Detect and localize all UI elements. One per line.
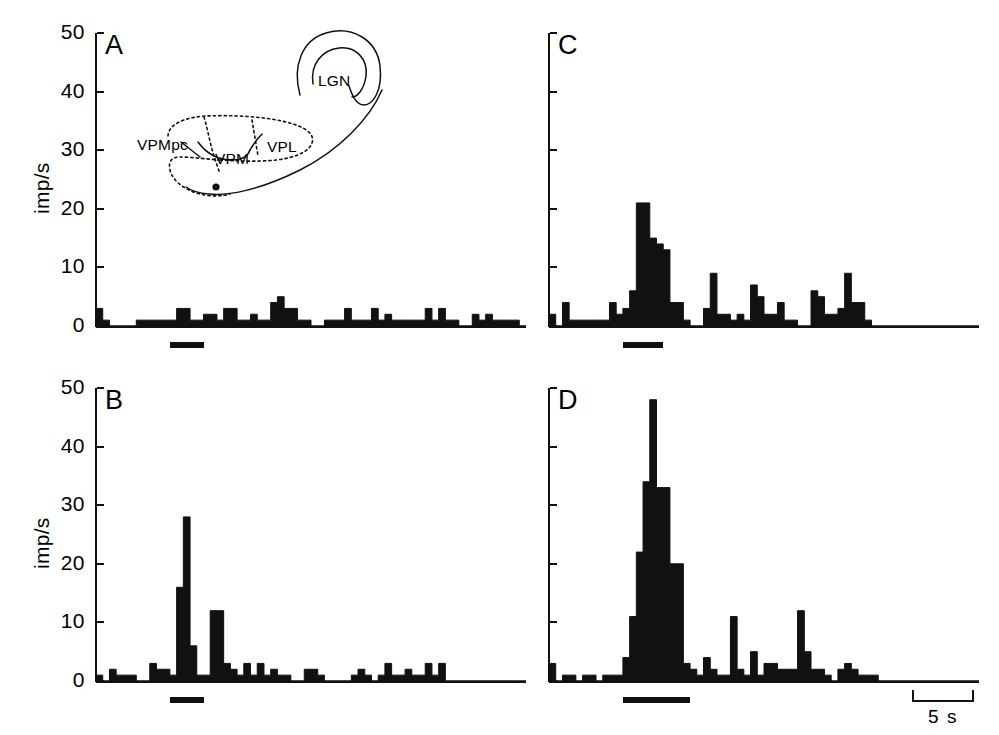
inset-label-lgn: LGN <box>318 72 350 90</box>
thalamus-outline-drawing <box>0 0 480 230</box>
psth-figure: 01020304050imp/sA01020304050imp/sBCD5 sL… <box>0 0 999 735</box>
vpm-vpl-divider <box>252 120 258 156</box>
inset-label-vpmpc: VPMpc <box>137 136 188 154</box>
thalamus-schematic-inset: LGNVPMpcVPMVPL <box>0 0 480 230</box>
inset-label-vpl: VPL <box>267 138 297 156</box>
histogram-d <box>549 388 979 683</box>
inset-label-vpm: VPM <box>215 150 249 168</box>
stimulus-bar-d <box>623 697 690 703</box>
scale-bar-tick-right <box>972 690 974 702</box>
recording-site-dot <box>212 183 219 190</box>
scale-bar-line <box>912 700 974 702</box>
lgn-outer-outline <box>297 31 380 105</box>
scale-bar-label: 5 s <box>912 706 974 728</box>
baseline-d <box>549 681 979 683</box>
scale-bar-tick-left <box>912 690 914 702</box>
histogram-holder-d <box>549 388 979 683</box>
time-scale-bar: 5 s <box>912 688 982 730</box>
